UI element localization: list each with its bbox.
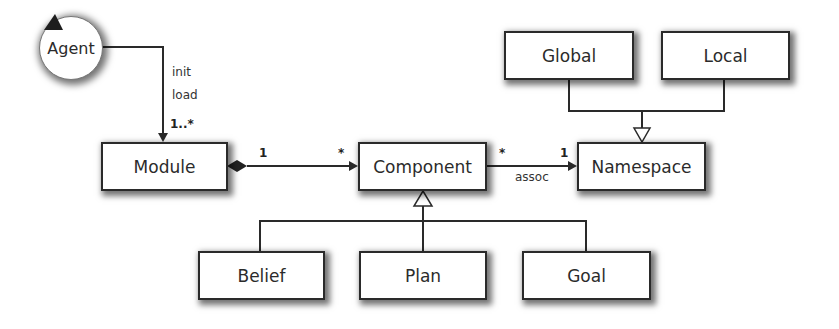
- multiplicity-module-source: 1: [259, 146, 267, 160]
- edge-label-load: load: [172, 88, 198, 102]
- multiplicity-module: 1..*: [170, 117, 194, 131]
- goal-label: Goal: [567, 266, 606, 286]
- goal-node: Goal: [522, 251, 651, 300]
- multiplicity-namespace-target: 1: [560, 146, 568, 160]
- global-node: Global: [504, 31, 634, 80]
- uml-diagram: Agent init load 1..* 1 * * 1 assoc Modul…: [0, 0, 839, 329]
- edge-label-init: init: [172, 65, 191, 79]
- plan-node: Plan: [359, 251, 487, 300]
- global-label: Global: [542, 46, 596, 66]
- component-node: Component: [358, 142, 487, 191]
- module-label: Module: [134, 157, 196, 177]
- local-node: Local: [661, 31, 790, 80]
- namespace-node: Namespace: [577, 142, 706, 191]
- belief-label: Belief: [237, 266, 285, 286]
- namespace-label: Namespace: [591, 157, 691, 177]
- multiplicity-component-source: *: [499, 146, 505, 160]
- plan-label: Plan: [405, 266, 441, 286]
- edge-label-assoc: assoc: [515, 170, 549, 184]
- belief-node: Belief: [198, 251, 325, 300]
- component-label: Component: [373, 157, 472, 177]
- local-label: Local: [703, 46, 747, 66]
- multiplicity-component-target: *: [338, 146, 344, 160]
- module-node: Module: [101, 142, 228, 191]
- agent-triangle-icon: [44, 14, 63, 30]
